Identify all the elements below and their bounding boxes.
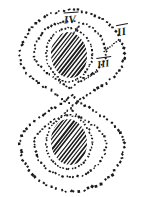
label-ii: II xyxy=(116,23,130,38)
label-iv: IV xyxy=(64,11,80,25)
label-iii-text: III xyxy=(97,58,113,70)
label-iii: III xyxy=(96,56,113,70)
scientific-figure: IV II III xyxy=(0,0,144,197)
label-iv-text: IV xyxy=(64,13,80,25)
label-ii-text: II xyxy=(116,25,130,38)
